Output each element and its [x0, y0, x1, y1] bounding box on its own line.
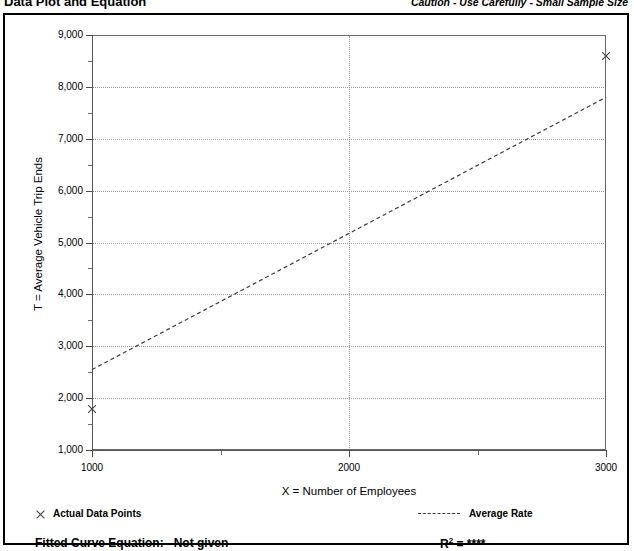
y-tick-minor [88, 424, 92, 425]
x-tick-minor [221, 451, 222, 455]
legend-actual-data-points-label: Actual Data Points [53, 508, 141, 519]
y-tick-minor [88, 372, 92, 373]
data-point-marker [601, 50, 612, 61]
r-squared: R2 = **** [440, 536, 486, 551]
fitted-curve-equation-value: Not given [174, 536, 229, 550]
y-tick [86, 243, 92, 244]
y-axis-line [92, 35, 93, 451]
chart: 1,0002,0003,0004,0005,0006,0007,0008,000… [3, 13, 629, 545]
page-title: Data Plot and Equation [4, 0, 146, 9]
plot-area [92, 35, 606, 450]
x-tick-label: 1000 [81, 462, 103, 473]
y-tick-minor [88, 165, 92, 166]
r-squared-equals: = [456, 537, 463, 551]
page-header: Data Plot and Equation Caution - Use Car… [0, 0, 634, 10]
y-tick-label: 9,000 [29, 29, 83, 40]
x-axis-title: X = Number of Employees [92, 485, 606, 497]
y-tick-label: 1,000 [29, 444, 83, 455]
y-tick [86, 139, 92, 140]
y-tick-minor [88, 113, 92, 114]
x-tick [606, 451, 607, 457]
caution-note: Caution - Use Carefully - Small Sample S… [411, 0, 628, 8]
y-axis-title: T = Average Vehicle Trip Ends [32, 54, 44, 414]
r-squared-exponent: 2 [449, 536, 453, 545]
x-tick-label: 2000 [338, 462, 360, 473]
y-tick-minor [88, 320, 92, 321]
fitted-curve-equation-label: Fitted Curve Equation: [35, 536, 164, 550]
legend-average-rate-label: Average Rate [469, 508, 533, 519]
r-squared-value: **** [467, 537, 486, 551]
y-tick-minor [88, 217, 92, 218]
x-tick-label: 3000 [595, 462, 617, 473]
x-tick-minor [478, 451, 479, 455]
y-tick [86, 87, 92, 88]
r-squared-label: R [440, 537, 449, 551]
y-tick-minor [88, 61, 92, 62]
data-point-marker [87, 403, 98, 414]
legend-dashed-line-icon [418, 513, 460, 514]
y-tick [86, 191, 92, 192]
x-tick [92, 451, 93, 457]
x-tick [349, 451, 350, 457]
y-tick [86, 398, 92, 399]
y-tick [86, 346, 92, 347]
y-tick [86, 294, 92, 295]
y-tick [86, 35, 92, 36]
legend-x-marker-icon [35, 509, 46, 520]
fitted-curve-equation: Fitted Curve Equation: Not given [35, 536, 228, 550]
y-tick-minor [88, 268, 92, 269]
